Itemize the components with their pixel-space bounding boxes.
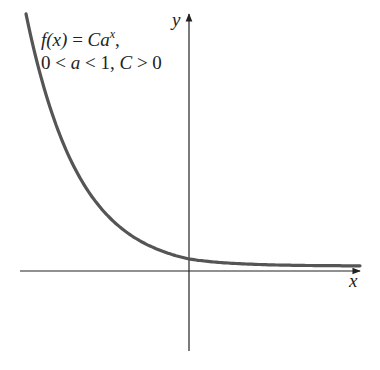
condition-part: < 1, — [85, 52, 115, 73]
base-a: a — [100, 29, 110, 50]
condition-var-c: C — [119, 52, 132, 73]
formula-line-2: 0 < a < 1, C > 0 — [41, 51, 162, 74]
condition-var-a: a — [71, 52, 81, 73]
function-name: f(x) — [41, 29, 67, 50]
y-axis-label: y — [172, 9, 180, 31]
condition-part: 0 < — [41, 52, 66, 73]
formula-line-1: f(x) = Cax, — [41, 23, 162, 51]
formula-label: f(x) = Cax, 0 < a < 1, C > 0 — [41, 23, 162, 74]
constant-c: C — [88, 29, 101, 50]
condition-part: > 0 — [137, 52, 162, 73]
formula-comma: , — [115, 29, 120, 50]
equals-sign: = — [72, 29, 83, 50]
exponential-decay-diagram: f(x) = Cax, 0 < a < 1, C > 0 y x — [0, 0, 380, 370]
x-axis-label: x — [349, 270, 357, 292]
